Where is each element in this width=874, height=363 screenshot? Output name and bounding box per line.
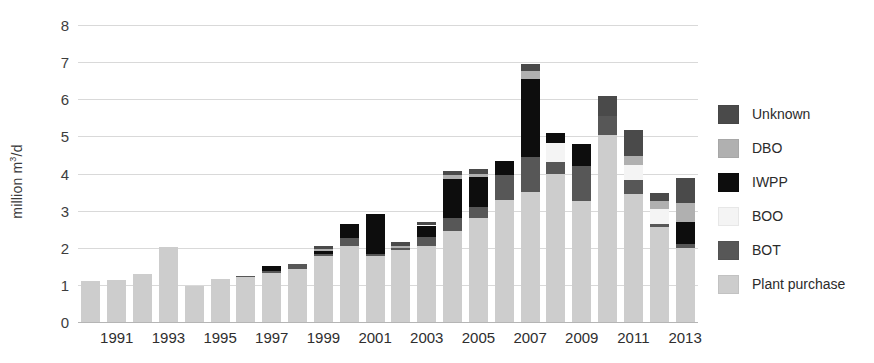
legend-label-bot: BOT [752,242,781,258]
bar-2003[interactable] [417,25,436,322]
bar-segment-2006-bot [495,175,514,199]
bar-segment-2005-plant-purchase [469,218,488,322]
bar-segment-1992-plant-purchase [133,274,152,322]
bar-2013[interactable] [676,25,695,322]
bar-2006[interactable] [495,25,514,322]
legend-label-plant-purchase: Plant purchase [752,276,845,292]
y-tick-label-7: 7 [61,54,69,71]
bar-segment-2012-plant-purchase [650,227,669,322]
bar-segment-2011-unknown [624,130,643,156]
bar-segment-1997-iwpp [262,266,281,271]
bar-1991[interactable] [107,25,126,322]
bar-2009[interactable] [572,25,591,322]
x-tick-label-2003: 2003 [410,329,443,346]
x-tick-label-2005: 2005 [462,329,495,346]
bar-segment-2009-bot [572,166,591,201]
bar-segment-2005-dbo [469,174,488,178]
bar-segment-2004-unknown [443,171,462,175]
bar-segment-2004-bot [443,218,462,231]
bar-1992[interactable] [133,25,152,322]
bar-chart-figure: million m3/d 012345678 19911993199519971… [0,0,874,363]
x-tick-label-1991: 1991 [100,329,133,346]
bar-segment-2002-bot [391,248,410,250]
bar-segment-2003-iwpp [417,226,436,237]
bar-segment-2007-iwpp [521,79,540,157]
bar-2004[interactable] [443,25,462,322]
bar-segment-2004-plant-purchase [443,231,462,322]
bar-group [78,25,698,322]
bar-segment-2005-bot [469,207,488,218]
bar-segment-1998-bot [288,264,307,269]
bar-1993[interactable] [159,25,178,322]
x-tick-label-2007: 2007 [513,329,546,346]
gridline-0 [78,322,698,323]
legend-swatch-boo [718,207,739,226]
x-tick-label-2013: 2013 [668,329,701,346]
y-tick-label-0: 0 [61,314,69,331]
bar-2000[interactable] [340,25,359,322]
bar-segment-2007-plant-purchase [521,192,540,322]
bar-segment-2013-plant-purchase [676,248,695,322]
y-tick-label-6: 6 [61,91,69,108]
bar-1994[interactable] [185,25,204,322]
bar-segment-2010-bot [598,116,617,135]
legend-item-dbo[interactable]: DBO [718,131,868,165]
bar-2010[interactable] [598,25,617,322]
bar-segment-2011-dbo [624,156,643,165]
bar-segment-2013-bot [676,244,695,248]
bar-segment-1993-plant-purchase [159,247,178,322]
bar-segment-2013-dbo [676,203,695,222]
bar-1995[interactable] [211,25,230,322]
bar-segment-2009-iwpp [572,144,591,166]
bar-1990[interactable] [81,25,100,322]
y-tick-label-5: 5 [61,128,69,145]
bar-1997[interactable] [262,25,281,322]
legend-item-unknown[interactable]: Unknown [718,97,868,131]
bar-2007[interactable] [521,25,540,322]
bar-2005[interactable] [469,25,488,322]
bar-1999[interactable] [314,25,333,322]
legend-swatch-plant-purchase [718,275,739,294]
bar-segment-2013-unknown [676,178,695,203]
bar-segment-2001-bot [366,254,385,256]
legend-swatch-unknown [718,105,739,124]
bar-2012[interactable] [650,25,669,322]
bar-segment-2005-unknown [469,169,488,173]
bar-2011[interactable] [624,25,643,322]
bar-2001[interactable] [366,25,385,322]
bar-segment-2012-bot [650,224,669,228]
legend-item-boo[interactable]: BOO [718,199,868,233]
legend-swatch-dbo [718,139,739,158]
legend-item-plant-purchase[interactable]: Plant purchase [718,267,868,301]
legend-label-iwpp: IWPP [752,174,788,190]
bar-segment-1997-bot [262,271,281,272]
y-tick-label-8: 8 [61,17,69,34]
y-tick-label-1: 1 [61,276,69,293]
legend-item-iwpp[interactable]: IWPP [718,165,868,199]
bar-2008[interactable] [546,25,565,322]
x-tick-label-1997: 1997 [255,329,288,346]
bar-segment-2000-iwpp [340,224,359,238]
bar-segment-2003-unknown [417,222,436,226]
bar-segment-2007-unknown [521,64,540,71]
bar-segment-2008-iwpp [546,133,565,143]
x-tick-label-1995: 1995 [203,329,236,346]
legend-item-bot[interactable]: BOT [718,233,868,267]
bar-segment-2006-iwpp [495,161,514,176]
bar-segment-1999-bot [314,254,333,255]
bar-segment-2011-boo [624,165,643,180]
bar-segment-2002-unknown [391,242,410,246]
legend-label-dbo: DBO [752,140,782,156]
bar-segment-2003-bot [417,237,436,246]
bar-segment-2000-plant-purchase [340,246,359,322]
bar-segment-2011-bot [624,180,643,194]
bar-segment-1997-plant-purchase [262,273,281,322]
bar-segment-2009-plant-purchase [572,201,591,322]
bar-segment-1994-plant-purchase [185,286,204,322]
x-tick-label-2011: 2011 [617,329,649,346]
bar-1996[interactable] [236,25,255,322]
bar-segment-2012-dbo [650,201,669,209]
bar-2002[interactable] [391,25,410,322]
bar-1998[interactable] [288,25,307,322]
plot-area: 012345678 199119931995199719992001200320… [78,25,698,322]
